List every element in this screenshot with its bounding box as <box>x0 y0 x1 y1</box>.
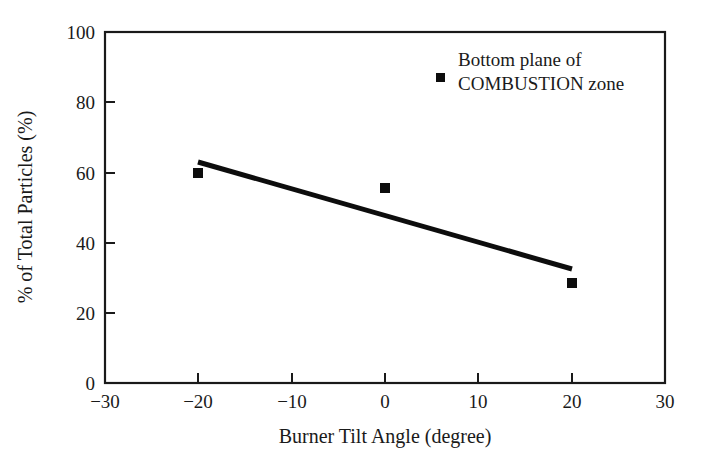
scatter-plot-canvas: 0 20 40 60 80 100 −30 −20 −10 0 10 20 30… <box>0 0 712 465</box>
x-tick-label-0: 0 <box>380 391 390 412</box>
x-tick-label-20: 20 <box>563 391 582 412</box>
y-tick-label-100: 100 <box>67 22 96 43</box>
y-tick-label-20: 20 <box>76 303 95 324</box>
x-tick-label-neg20: −20 <box>183 391 213 412</box>
x-tick-label-30: 30 <box>656 391 675 412</box>
x-tick-label-neg30: −30 <box>90 391 120 412</box>
data-point-marker <box>380 183 390 193</box>
y-axis-title: % of Total Particles (%) <box>14 111 37 304</box>
x-tick-label-10: 10 <box>469 391 488 412</box>
x-axis-title: Burner Tilt Angle (degree) <box>279 425 492 448</box>
legend-marker-icon <box>436 73 445 82</box>
data-point-marker <box>193 168 203 178</box>
data-point-marker <box>567 278 577 288</box>
x-tick-label-neg10: −10 <box>277 391 307 412</box>
y-tick-label-80: 80 <box>76 92 95 113</box>
y-tick-label-60: 60 <box>76 163 95 184</box>
y-tick-label-40: 40 <box>76 233 95 254</box>
legend-label-line2: COMBUSTION zone <box>458 73 624 94</box>
chart-figure: 0 20 40 60 80 100 −30 −20 −10 0 10 20 30… <box>0 0 712 465</box>
legend-label-line1: Bottom plane of <box>458 49 582 70</box>
